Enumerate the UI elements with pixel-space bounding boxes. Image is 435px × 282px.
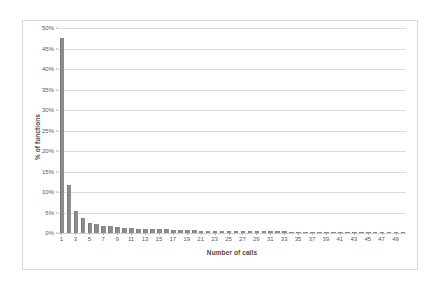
x-tick-mark	[242, 233, 243, 235]
x-tick-mark	[284, 233, 285, 235]
x-tick-mark	[145, 233, 146, 235]
x-tick-mark	[215, 233, 216, 235]
bars-layer	[58, 28, 406, 233]
x-tick-mark	[117, 233, 118, 235]
bar	[67, 185, 72, 233]
x-tick-mark	[312, 233, 313, 235]
x-axis-title: Number of calls	[58, 249, 406, 256]
bar	[88, 223, 93, 233]
x-tick-label: 37	[309, 236, 316, 242]
y-tick-label: 15%	[42, 169, 54, 175]
bar	[74, 211, 79, 233]
x-tick-label: 43	[350, 236, 357, 242]
x-tick-mark	[75, 233, 76, 235]
x-tick-label: 31	[267, 236, 274, 242]
y-tick-label: 5%	[45, 210, 54, 216]
x-tick-label: 5	[88, 236, 91, 242]
x-tick-mark	[326, 233, 327, 235]
bar	[81, 218, 86, 233]
y-tick-label: 0%	[45, 230, 54, 236]
plot-area: 0%5%10%15%20%25%30%35%40%45%50% 13579111…	[58, 28, 406, 233]
y-tick-label: 20%	[42, 148, 54, 154]
x-tick-label: 17	[169, 236, 176, 242]
x-axis-ticks: 1357911131517192123252729313335373941434…	[58, 233, 406, 247]
x-tick-label: 23	[211, 236, 218, 242]
x-tick-label: 29	[253, 236, 260, 242]
x-tick-mark	[298, 233, 299, 235]
x-tick-mark	[340, 233, 341, 235]
x-tick-label: 39	[323, 236, 330, 242]
x-tick-label: 45	[364, 236, 371, 242]
x-tick-mark	[159, 233, 160, 235]
x-tick-label: 33	[281, 236, 288, 242]
x-tick-mark	[103, 233, 104, 235]
bar	[101, 226, 106, 233]
chart-figure: % of functions 0%5%10%15%20%25%30%35%40%…	[22, 20, 418, 270]
x-tick-label: 41	[337, 236, 344, 242]
x-tick-mark	[354, 233, 355, 235]
x-tick-label: 49	[392, 236, 399, 242]
y-tick-label: 35%	[42, 87, 54, 93]
x-tick-mark	[382, 233, 383, 235]
x-tick-label: 35	[295, 236, 302, 242]
x-tick-label: 9	[115, 236, 118, 242]
y-tick-label: 25%	[42, 128, 54, 134]
x-tick-mark	[131, 233, 132, 235]
x-tick-label: 25	[225, 236, 232, 242]
y-tick-label: 50%	[42, 25, 54, 31]
x-tick-mark	[256, 233, 257, 235]
x-tick-mark	[396, 233, 397, 235]
x-tick-mark	[187, 233, 188, 235]
x-tick-label: 15	[156, 236, 163, 242]
x-tick-label: 11	[128, 236, 134, 242]
y-tick-label: 45%	[42, 46, 54, 52]
y-tick-label: 40%	[42, 66, 54, 72]
x-tick-mark	[61, 233, 62, 235]
bar	[94, 224, 99, 233]
x-tick-mark	[270, 233, 271, 235]
x-tick-mark	[368, 233, 369, 235]
y-tick-label: 10%	[42, 189, 54, 195]
x-tick-label: 47	[378, 236, 385, 242]
x-tick-mark	[229, 233, 230, 235]
bar	[60, 38, 65, 233]
x-tick-label: 3	[74, 236, 77, 242]
x-tick-label: 21	[197, 236, 204, 242]
y-tick-label: 30%	[42, 107, 54, 113]
x-tick-label: 27	[239, 236, 246, 242]
x-tick-label: 7	[102, 236, 105, 242]
x-tick-label: 19	[183, 236, 190, 242]
x-tick-mark	[201, 233, 202, 235]
x-tick-mark	[89, 233, 90, 235]
x-tick-label: 1	[60, 236, 63, 242]
x-tick-mark	[173, 233, 174, 235]
x-tick-label: 13	[142, 236, 149, 242]
